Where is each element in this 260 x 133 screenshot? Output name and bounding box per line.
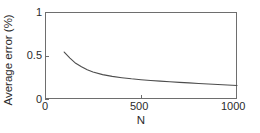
x-tick-label-0: 0	[42, 101, 48, 112]
x-tick-label-500: 500	[130, 101, 148, 112]
y-tick-mark-1	[45, 12, 49, 13]
y-axis-title: Average error (%)	[1, 19, 15, 106]
chart-figure: 0 0.5 1 0 500 1000 Average error (%) N	[0, 0, 260, 133]
x-tick-label-1000: 1000	[221, 101, 245, 112]
y-tick-label-1: 1	[36, 7, 42, 18]
x-axis-title: N	[45, 114, 237, 127]
x-tick-mark-1000	[236, 95, 237, 99]
x-tick-mark-0	[45, 95, 46, 99]
y-tick-mark-0.5	[45, 56, 49, 57]
y-tick-label-0.5: 0.5	[27, 50, 42, 61]
line-series-average-error	[45, 12, 237, 99]
curve-polyline	[64, 52, 237, 85]
x-tick-mark-500	[141, 95, 142, 99]
